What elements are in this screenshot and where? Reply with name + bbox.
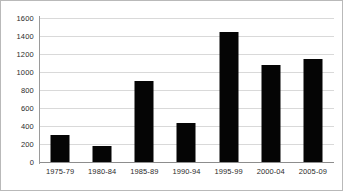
bar-1980-84[interactable] [93,146,112,162]
bar-2005-09[interactable] [303,59,322,163]
axis-baseline [39,162,334,163]
y-axis-tick-labels: 02004006008001000120014001600 [1,18,34,162]
x-tick-label-1990-94: 1990-94 [172,167,200,176]
x-tick-label-1985-89: 1985-89 [130,167,158,176]
bar-1995-99[interactable] [219,32,238,163]
y-tick-label-1200: 1200 [17,50,35,59]
y-tick-label-200: 200 [21,140,34,149]
x-tick-label-2005-09: 2005-09 [299,167,327,176]
x-axis-tick-labels: 1975-791980-841985-891990-941995-992000-… [39,167,334,181]
bar-1990-94[interactable] [177,123,196,162]
y-tick-label-1000: 1000 [17,68,35,77]
bar-slot [208,18,250,162]
bar-1985-89[interactable] [135,81,154,162]
bar-slot [165,18,207,162]
bar-slot [81,18,123,162]
x-tick-label-1975-79: 1975-79 [46,167,74,176]
y-tick-label-0: 0 [30,158,34,167]
bars-layer [39,18,334,162]
y-tick-label-1600: 1600 [17,14,35,23]
y-tick-label-1400: 1400 [17,32,35,41]
x-tick-label-1995-99: 1995-99 [215,167,243,176]
y-tick-label-400: 400 [21,122,34,131]
bar-1975-79[interactable] [51,135,70,162]
y-tick-label-600: 600 [21,104,34,113]
bar-slot [123,18,165,162]
bar-slot [39,18,81,162]
bar-2000-04[interactable] [261,65,280,162]
bar-chart-figure: 02004006008001000120014001600 1975-79198… [0,0,343,191]
bar-slot [250,18,292,162]
x-tick-label-1980-84: 1980-84 [88,167,116,176]
x-tick-label-2000-04: 2000-04 [257,167,285,176]
bar-slot [292,18,334,162]
y-tick-label-800: 800 [21,86,34,95]
